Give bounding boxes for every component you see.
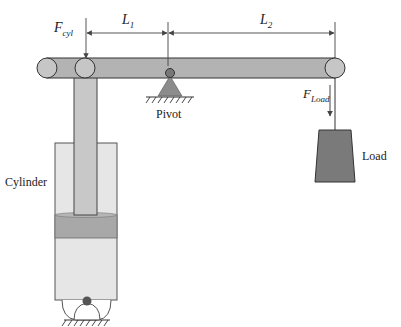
- l1-label: L1: [121, 12, 134, 30]
- rod-joint-icon: [75, 58, 95, 78]
- f-cyl-label: Fcyl: [53, 20, 74, 38]
- pivot-label: Pivot: [156, 107, 182, 121]
- piston-rod: [74, 68, 97, 215]
- mount-pin-icon: [83, 297, 92, 306]
- f-load-label: FLoad: [302, 86, 330, 104]
- load-weight: [315, 130, 355, 182]
- pivot-pin-icon: [166, 69, 175, 78]
- lever-beam: [37, 58, 345, 78]
- cylinder-label: Cylinder: [5, 175, 47, 189]
- lever-diagram: Fcyl L1 L2 FLoad Pivot Load Cylinder: [0, 0, 401, 327]
- load-label: Load: [362, 149, 387, 163]
- cylinder-mount: [62, 297, 111, 327]
- load-joint-icon: [325, 58, 345, 78]
- piston: [55, 215, 117, 238]
- l2-label: L2: [259, 12, 273, 30]
